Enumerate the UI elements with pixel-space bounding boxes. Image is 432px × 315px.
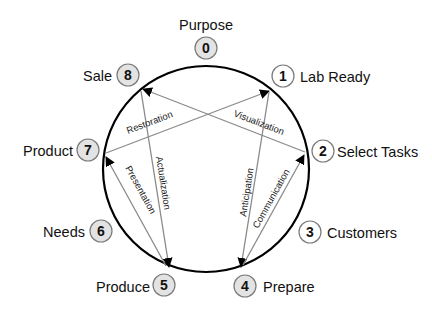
node-7: Product 7 xyxy=(23,139,99,161)
svg-text:1: 1 xyxy=(279,68,287,84)
node-label-product: Product xyxy=(23,143,73,159)
node-3: 3 Customers xyxy=(299,221,397,243)
edge-label-communication: Communication xyxy=(250,167,292,230)
svg-text:0: 0 xyxy=(202,40,210,56)
node-label-sale: Sale xyxy=(83,68,112,84)
svg-text:5: 5 xyxy=(160,277,168,293)
svg-text:8: 8 xyxy=(124,67,132,83)
node-label-prepare: Prepare xyxy=(263,279,315,295)
node-0: Purpose 0 xyxy=(179,17,233,59)
node-4: 4 Prepare xyxy=(234,275,315,297)
edge-label-actualization: Actualization xyxy=(154,156,173,211)
edge-label-restoration: Restoration xyxy=(125,108,174,136)
node-label-select-tasks: Select Tasks xyxy=(337,144,418,160)
svg-text:6: 6 xyxy=(97,223,105,239)
node-label-lab-ready: Lab Ready xyxy=(300,69,371,85)
edge-label-visualization: Visualization xyxy=(232,108,286,137)
node-label-purpose: Purpose xyxy=(179,17,233,33)
svg-text:4: 4 xyxy=(241,278,249,294)
node-label-customers: Customers xyxy=(327,225,397,241)
node-label-produce: Produce xyxy=(96,279,150,295)
svg-text:2: 2 xyxy=(319,143,327,159)
svg-text:3: 3 xyxy=(306,224,314,240)
node-6: Needs 6 xyxy=(43,220,112,242)
cycle-diagram: Restoration Visualization Actualization … xyxy=(0,0,432,315)
svg-text:7: 7 xyxy=(84,142,92,158)
node-8: Sale 8 xyxy=(83,64,139,86)
node-label-needs: Needs xyxy=(43,224,85,240)
node-2: 2 Select Tasks xyxy=(312,140,418,162)
node-1: 1 Lab Ready xyxy=(272,65,371,87)
node-5: Produce 5 xyxy=(96,274,175,296)
